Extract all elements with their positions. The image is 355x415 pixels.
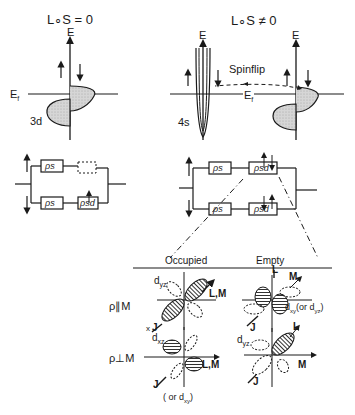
par-emp-orbital: dxy(or dyz) <box>285 303 324 314</box>
par-emp-j: J <box>250 323 256 333</box>
row-perp: ρ⊥M <box>109 353 134 364</box>
left-r-up-1-label: ρs <box>45 162 55 171</box>
left-fermi-label: Ef <box>10 89 19 102</box>
left-axis-e: E <box>67 27 74 38</box>
right-r-up-1-label: ρs <box>213 164 223 173</box>
right-r-down-2-label: ρsd <box>254 205 269 214</box>
perp-emp-l: L <box>293 322 299 332</box>
right-axis-e-s: E <box>199 30 206 41</box>
left-r-down-1-label: ρs <box>45 199 55 208</box>
resistor-empty-up <box>78 162 96 173</box>
left-circuit <box>15 157 126 211</box>
band-label-3d: 3d <box>30 116 42 127</box>
right-axis-e-d: E <box>292 30 299 41</box>
right-title: L∘S ≠ 0 <box>231 14 277 27</box>
perp-emp-orbital: dyz <box>237 335 250 347</box>
perp-emp-m: M <box>298 360 306 370</box>
right-circuit <box>170 155 318 258</box>
left-title: L∘S = 0 <box>47 13 93 26</box>
perp-occ-j: J <box>153 380 159 390</box>
col-empty: Empty <box>256 256 284 266</box>
par-occ-lm: L,M <box>209 289 226 299</box>
perp-occ-orbital: dxz <box>152 333 165 345</box>
band-label-4s: 4s <box>178 117 190 128</box>
col-occupied: Occupied <box>165 256 207 266</box>
perp-emp-j: J <box>253 377 259 387</box>
par-emp-l: L <box>272 265 278 275</box>
right-fermi-label: Ef <box>243 90 254 103</box>
par-occ-orbital: dyz <box>154 276 167 288</box>
perp-occ-lm: L,M <box>202 360 219 370</box>
par-emp-m: M <box>289 272 297 282</box>
row-parallel: ρ∥M <box>109 301 130 312</box>
right-dos-panel <box>170 43 344 140</box>
left-r-down-2-label: ρsd <box>80 199 95 208</box>
right-r-up-2-label: ρsd <box>254 164 269 173</box>
right-r-down-1-label: ρs <box>213 205 223 214</box>
perp-occ-note: ( or dxy) <box>163 393 193 404</box>
spinflip-label: Spinflip <box>229 64 265 75</box>
par-occ-x: x <box>146 325 150 333</box>
